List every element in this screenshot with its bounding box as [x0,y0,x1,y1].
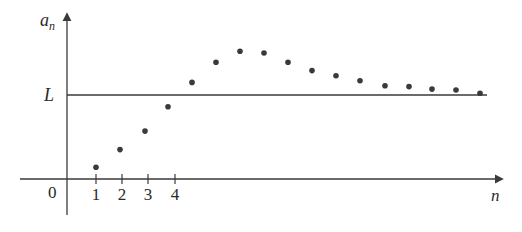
data-point [117,147,123,153]
data-point [382,83,388,89]
data-points [93,49,483,171]
data-point [477,91,483,97]
x-tick-label: 3 [144,185,153,204]
x-axis-label: n [491,186,500,205]
x-tick-label: 4 [171,185,180,204]
data-point [357,78,363,84]
data-point [93,164,99,170]
data-point [333,73,339,79]
data-point [189,80,195,86]
data-point [285,59,291,65]
data-point [213,59,219,65]
data-point [429,86,435,92]
data-point [453,87,459,93]
x-tick-label: 2 [118,185,127,204]
data-point [237,49,243,55]
sequence-chart: an n L 0 1234 [0,0,522,232]
data-point [309,68,315,74]
data-point [261,50,267,56]
y-axis-label: an [40,10,55,33]
limit-label: L [43,85,54,105]
data-point [142,128,148,134]
data-point [165,104,171,110]
data-point [406,84,412,90]
origin-label: 0 [48,183,57,202]
x-tick-label: 1 [92,185,101,204]
